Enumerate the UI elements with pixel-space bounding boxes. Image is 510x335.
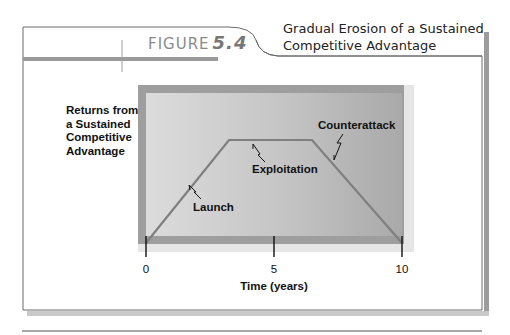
figure-label: FIGURE5.4 [148, 32, 247, 53]
figure-number: 5.4 [213, 32, 248, 53]
annotation-launch: Launch [193, 201, 234, 213]
annotation-counterattack: Counterattack [318, 119, 395, 131]
figure-title: Gradual Erosion of a Sustained Competiti… [283, 20, 503, 54]
tick-label-10: 10 [396, 263, 409, 275]
frame-shadow-bottom [27, 311, 489, 316]
tick-label-5: 5 [271, 263, 277, 275]
heading-bar [23, 57, 218, 61]
tick-label-0: 0 [143, 263, 149, 275]
figure-label-text: FIGURE [148, 35, 210, 53]
y-axis-label: Returns from a Sustained Competitive Adv… [66, 104, 146, 158]
annotation-exploitation: Exploitation [252, 163, 318, 175]
frame-shadow-right [484, 32, 489, 316]
x-axis-label: Time (years) [240, 280, 308, 292]
